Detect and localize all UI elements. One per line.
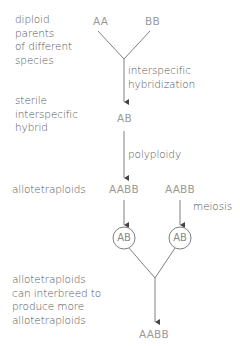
gamete-label-left: AB	[113, 227, 135, 249]
line-parent-a	[98, 31, 124, 59]
gamete-label-right: AB	[169, 227, 191, 249]
diagram-lines	[0, 0, 240, 346]
line-parent-b	[124, 31, 150, 59]
line-gamete-left	[129, 248, 155, 278]
line-gamete-right	[155, 248, 175, 278]
